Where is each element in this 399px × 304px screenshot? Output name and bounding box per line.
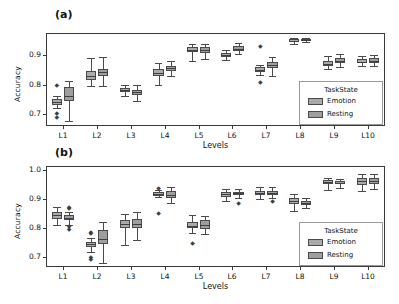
upper-whisker — [192, 215, 193, 222]
upper-cap — [256, 187, 264, 188]
outlier-marker — [66, 205, 72, 211]
lower-whisker — [137, 228, 138, 240]
x-tick — [368, 267, 369, 270]
upper-cap — [370, 174, 378, 175]
upper-cap — [235, 189, 243, 190]
upper-cap — [269, 187, 277, 188]
lower-cap — [324, 190, 332, 191]
outlier-marker — [269, 198, 275, 204]
panel-tag: (b) — [55, 146, 73, 159]
outlier-marker — [236, 200, 242, 206]
median-line — [166, 195, 176, 196]
lower-cap — [222, 201, 230, 202]
outlier-marker — [88, 230, 94, 236]
y-tick — [43, 199, 46, 200]
x-tick-label: L5 — [184, 272, 214, 281]
legend-item-emotion[interactable]: Emotion — [308, 238, 356, 246]
lower-cap — [290, 211, 298, 212]
upper-cap — [222, 189, 230, 190]
upper-cap — [201, 216, 209, 217]
median-line — [221, 194, 231, 195]
x-tick-label: L7 — [251, 272, 281, 281]
median-line — [86, 244, 96, 245]
legend-label-emotion: Emotion — [327, 238, 356, 246]
y-axis-label: Accuracy — [13, 203, 22, 239]
legend-item-resting[interactable]: Resting — [308, 251, 353, 259]
upper-whisker — [103, 222, 104, 230]
panel-b: (b)0.70.80.91.0AccuracyL1L2L3L4L5L6L7L8L… — [0, 0, 399, 304]
median-line — [369, 181, 379, 182]
lower-cap — [201, 234, 209, 235]
lower-cap — [155, 197, 163, 198]
outlier-marker — [156, 210, 162, 216]
x-tick — [63, 267, 64, 270]
y-tick-label: 1.0 — [16, 165, 41, 174]
outlier-marker — [156, 185, 162, 191]
upper-whisker — [137, 212, 138, 220]
upper-cap — [87, 238, 95, 239]
x-tick-label: L1 — [48, 272, 78, 281]
outlier-marker — [66, 226, 72, 232]
x-tick — [300, 267, 301, 270]
median-line — [52, 215, 62, 216]
lower-cap — [358, 191, 366, 192]
x-tick — [131, 267, 132, 270]
upper-cap — [189, 215, 197, 216]
upper-cap — [99, 222, 107, 223]
lower-cap — [53, 225, 61, 226]
median-line — [98, 239, 108, 240]
median-line — [267, 193, 277, 194]
x-tick-label: L6 — [217, 272, 247, 281]
median-line — [323, 182, 333, 183]
lower-cap — [167, 203, 175, 204]
y-tick-label: 0.9 — [16, 194, 41, 203]
median-line — [301, 203, 311, 204]
legend-title: TaskState — [300, 227, 382, 235]
lower-cap — [370, 189, 378, 190]
x-tick — [266, 267, 267, 270]
upper-cap — [336, 179, 344, 180]
upper-cap — [53, 207, 61, 208]
upper-cap — [358, 174, 366, 175]
x-tick — [334, 267, 335, 270]
legend-swatch-resting — [308, 252, 323, 259]
x-tick-label: L2 — [82, 272, 112, 281]
lower-cap — [256, 199, 264, 200]
median-line — [120, 224, 130, 225]
lower-whisker — [294, 204, 295, 211]
median-line — [187, 226, 197, 227]
upper-cap — [133, 212, 141, 213]
y-tick — [43, 170, 46, 171]
upper-cap — [121, 214, 129, 215]
y-tick-label: 0.7 — [16, 252, 41, 261]
x-tick-label: L9 — [319, 272, 349, 281]
median-line — [132, 224, 142, 225]
lower-cap — [336, 188, 344, 189]
lower-cap — [133, 240, 141, 241]
x-tick — [165, 267, 166, 270]
x-tick-label: L4 — [150, 272, 180, 281]
lower-cap — [302, 208, 310, 209]
outlier-marker — [189, 240, 195, 246]
median-line — [233, 193, 243, 194]
median-line — [357, 181, 367, 182]
x-tick-label: L10 — [353, 272, 383, 281]
legend-label-resting: Resting — [327, 251, 353, 259]
lower-whisker — [103, 244, 104, 263]
x-tick-label: L3 — [116, 272, 146, 281]
legend-swatch-emotion — [308, 239, 323, 246]
outlier-marker — [88, 256, 94, 262]
x-tick — [199, 267, 200, 270]
x-tick — [232, 267, 233, 270]
median-line — [200, 225, 210, 226]
lower-cap — [189, 233, 197, 234]
upper-cap — [167, 187, 175, 188]
median-line — [255, 193, 265, 194]
upper-cap — [324, 178, 332, 179]
upper-cap — [290, 194, 298, 195]
upper-cap — [65, 212, 73, 213]
boxplot-figure: (a)0.70.80.9AccuracyL1L2L3L4L5L6L7L8L9L1… — [0, 0, 399, 304]
lower-whisker — [125, 228, 126, 246]
upper-cap — [302, 198, 310, 199]
lower-cap — [99, 263, 107, 264]
